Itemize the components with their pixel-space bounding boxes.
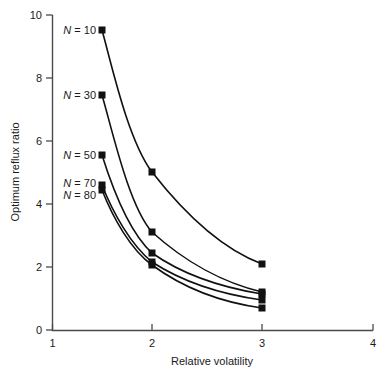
curve-n50	[102, 155, 262, 294]
y-tick-marks	[46, 15, 53, 330]
series-label-n10-var: N	[63, 24, 71, 36]
marker-n10-p1	[99, 27, 106, 34]
y-tick-labels: 10 8 6 4 2 0	[30, 9, 42, 336]
y-tick-label-4: 4	[36, 198, 42, 210]
series-label-n30-rest: = 30	[74, 89, 96, 101]
series-label-n70-rest: = 70	[74, 177, 96, 189]
marker-n80-p3	[259, 305, 266, 312]
y-tick-label-2: 2	[36, 261, 42, 273]
marker-n70-p3	[259, 297, 266, 304]
series-label-n10: N= 10	[63, 24, 96, 36]
y-tick-label-0: 0	[36, 324, 42, 336]
marker-n10-p2	[149, 169, 156, 176]
x-tick-label-3: 3	[259, 337, 265, 349]
marker-n50-p2	[149, 250, 156, 257]
marker-n30-p2	[149, 229, 156, 236]
y-tick-label-8: 8	[36, 72, 42, 84]
x-tick-label-2: 2	[149, 337, 155, 349]
marker-n30-p1	[99, 92, 106, 99]
chart-figure: 10 8 6 4 2 0 1 2 3 4 Relative volatility…	[0, 0, 389, 378]
x-tick-label-1: 1	[49, 337, 55, 349]
series-label-n50-rest: = 50	[74, 149, 96, 161]
y-axis-title: Optimum reflux ratio	[9, 122, 21, 221]
x-tick-labels: 1 2 3 4	[49, 337, 376, 349]
marker-n80-p1	[99, 187, 106, 194]
marker-n10-p3	[259, 261, 266, 268]
x-tick-marks	[53, 324, 374, 331]
series-label-n30: N= 30	[63, 89, 96, 101]
y-tick-label-6: 6	[36, 135, 42, 147]
y-tick-label-10: 10	[30, 9, 42, 21]
series-label-n80-var: N	[63, 189, 71, 201]
series-label-n50-var: N	[63, 149, 71, 161]
series-label-n70: N= 70	[63, 177, 96, 189]
series-label-n80-rest: = 80	[74, 189, 96, 201]
marker-n80-p2	[149, 262, 156, 269]
marker-n50-p1	[99, 152, 106, 159]
series-label-n50: N= 50	[63, 149, 96, 161]
series-labels: N= 10 N= 30 N= 50 N= 70 N= 80	[63, 24, 96, 201]
curve-n10	[102, 30, 262, 264]
series-label-n10-rest: = 10	[74, 24, 96, 36]
series-curves	[102, 30, 262, 308]
series-label-n30-var: N	[63, 89, 71, 101]
series-label-n80: N= 80	[63, 189, 96, 201]
curve-n30	[102, 95, 262, 292]
x-tick-label-4: 4	[370, 337, 376, 349]
reflux-ratio-chart: 10 8 6 4 2 0 1 2 3 4 Relative volatility…	[0, 0, 389, 378]
marker-n50-p3	[259, 291, 266, 298]
series-label-n70-var: N	[63, 177, 71, 189]
x-axis-title: Relative volatility	[171, 355, 253, 367]
